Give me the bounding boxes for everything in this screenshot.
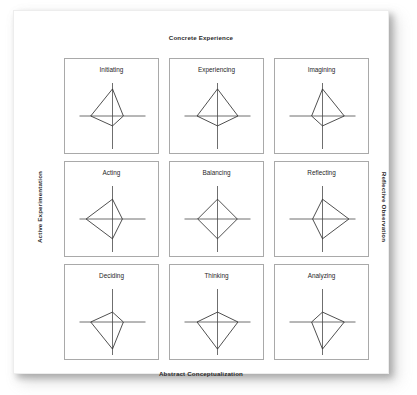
kite-cell-reflecting: Reflecting: [274, 161, 369, 257]
kite-cell-experiencing: Experiencing: [169, 58, 264, 154]
kite-cell-title: Balancing: [170, 169, 263, 176]
kite-plot-initiating: [65, 59, 160, 155]
kite-cell-title: Initiating: [65, 66, 158, 73]
kite-cell-title: Deciding: [65, 272, 158, 279]
kite-cell-initiating: Initiating: [64, 58, 159, 154]
kite-cell-title: Reflecting: [275, 169, 368, 176]
kite-cell-title: Acting: [65, 169, 158, 176]
kite-plot-deciding: [65, 265, 160, 361]
axis-label-reflective-observation: Reflective Observation: [381, 172, 388, 242]
kite-chart-grid: InitiatingExperiencingImaginingActingBal…: [64, 58, 369, 360]
kolb-learning-style-figure: Concrete Experience Abstract Conceptuali…: [0, 0, 417, 395]
kite-plot-thinking: [170, 265, 265, 361]
kite-plot-balancing: [170, 162, 265, 258]
kite-cell-deciding: Deciding: [64, 264, 159, 360]
kite-cell-acting: Acting: [64, 161, 159, 257]
kite-polygon: [312, 312, 345, 349]
kite-polygon: [91, 89, 124, 126]
kite-plot-acting: [65, 162, 160, 258]
kite-cell-title: Imagining: [275, 66, 368, 73]
kite-cell-title: Thinking: [170, 272, 263, 279]
axis-label-abstract-conceptualization: Abstract Conceptualization: [13, 370, 389, 377]
kite-polygon: [312, 89, 345, 126]
kite-plot-imagining: [275, 59, 370, 155]
kite-cell-title: Experiencing: [170, 66, 263, 73]
kite-cell-thinking: Thinking: [169, 264, 264, 360]
kite-plot-experiencing: [170, 59, 265, 155]
kite-cell-balancing: Balancing: [169, 161, 264, 257]
kite-polygon: [91, 312, 124, 349]
kite-plot-reflecting: [275, 162, 370, 258]
kite-plot-analyzing: [275, 265, 370, 361]
figure-card: Concrete Experience Abstract Conceptuali…: [13, 10, 389, 374]
axis-label-concrete-experience: Concrete Experience: [13, 34, 389, 41]
kite-cell-analyzing: Analyzing: [274, 264, 369, 360]
axis-label-active-experimentation: Active Experimentation: [36, 171, 43, 243]
kite-cell-imagining: Imagining: [274, 58, 369, 154]
kite-cell-title: Analyzing: [275, 272, 368, 279]
